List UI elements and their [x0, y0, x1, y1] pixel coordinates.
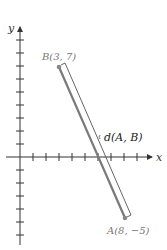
- y-axis: y: [7, 22, 24, 245]
- x-axis-label: x: [156, 151, 163, 164]
- x-axis: x: [6, 151, 163, 164]
- y-axis-label: y: [7, 22, 15, 35]
- point-a: [123, 216, 128, 221]
- distance-diagram: x y B(3, 7) A(8, −5) d: [0, 0, 167, 250]
- distance-label: d(A, B): [104, 131, 143, 144]
- point-b: [57, 65, 62, 70]
- point-b-label: B(3, 7): [41, 51, 76, 62]
- point-a-label: A(8, −5): [106, 225, 150, 236]
- label-brace: [99, 135, 100, 139]
